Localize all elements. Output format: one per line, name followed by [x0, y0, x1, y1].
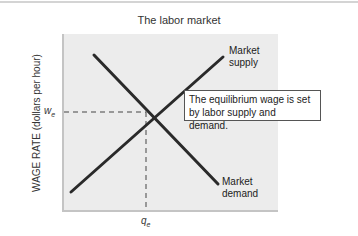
- demand-label-line2: demand: [222, 188, 258, 200]
- supply-label-line1: Market: [229, 45, 260, 57]
- demand-label: Market demand: [222, 176, 258, 200]
- supply-label-line2: supply: [229, 57, 260, 69]
- demand-label-line1: Market: [222, 176, 258, 188]
- y-tick-sub: e: [51, 111, 55, 118]
- callout-line1: The equilibrium wage is set: [189, 93, 316, 106]
- supply-label: Market supply: [229, 45, 260, 69]
- equilibrium-callout: The equilibrium wage is set by labor sup…: [184, 90, 321, 121]
- y-axis-label: WAGE RATE (dollars per hour): [31, 54, 42, 192]
- callout-line2: by labor supply and demand.: [189, 106, 316, 132]
- y-tick-equilibrium-wage: we: [44, 105, 55, 118]
- x-tick-equilibrium-quantity: qe: [141, 215, 150, 228]
- x-tick-sub: e: [147, 221, 151, 228]
